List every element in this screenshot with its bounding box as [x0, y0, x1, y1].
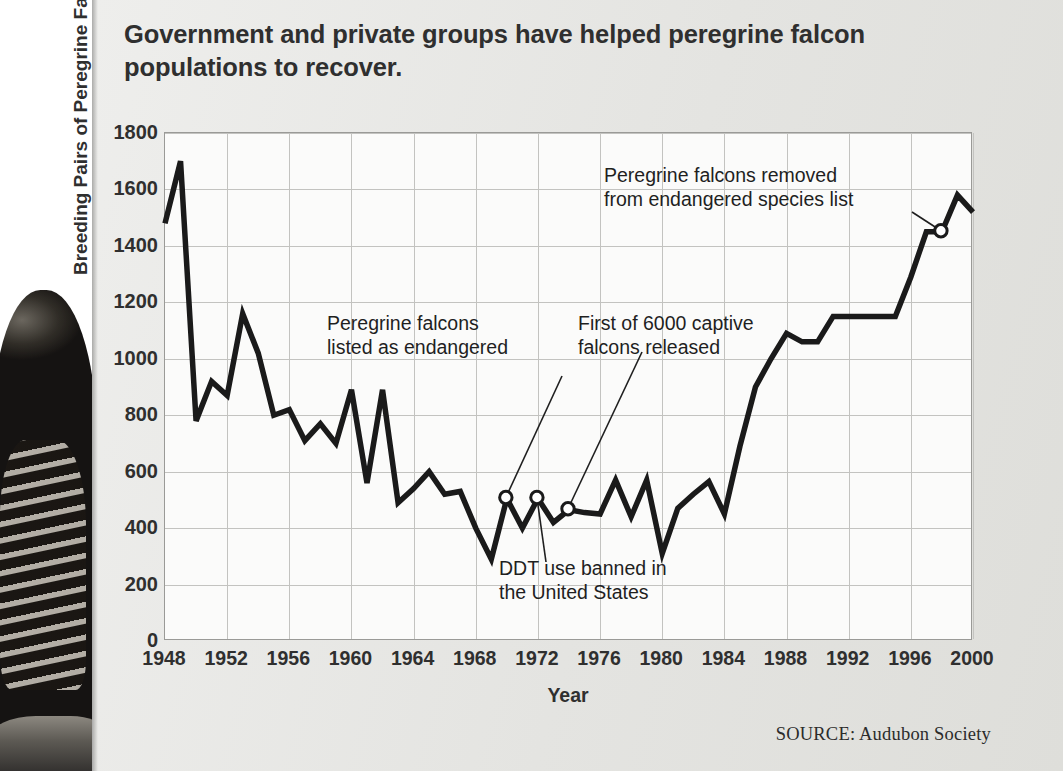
y-tick-label: 200 — [96, 572, 158, 595]
x-axis-ticks: 1948195219561960196419681972197619801984… — [164, 647, 972, 675]
x-tick-label: 1992 — [826, 647, 869, 670]
y-tick-label: 1000 — [96, 346, 158, 369]
y-tick-label: 1600 — [96, 177, 158, 200]
y-tick-label: 1400 — [96, 233, 158, 256]
x-tick-label: 1952 — [204, 647, 247, 670]
x-tick-label: 1988 — [764, 647, 807, 670]
y-tick-label: 400 — [96, 516, 158, 539]
x-axis-label: Year — [164, 684, 972, 707]
annotation-listed-as-endangered: Peregrine falcons listed as endangered — [327, 312, 508, 360]
page-title: Government and private groups have helpe… — [124, 18, 884, 84]
x-tick-label: 1956 — [267, 647, 310, 670]
data-line — [165, 161, 973, 559]
y-tick-label: 800 — [96, 403, 158, 426]
x-tick-label: 1976 — [577, 647, 620, 670]
x-tick-label: 1948 — [142, 647, 185, 670]
x-tick-label: 1984 — [702, 647, 745, 670]
x-tick-label: 2000 — [950, 647, 993, 670]
x-tick-label: 1968 — [453, 647, 496, 670]
x-tick-label: 1972 — [515, 647, 558, 670]
photo-ground — [0, 716, 92, 771]
source-credit: SOURCE: Audubon Society — [776, 724, 991, 745]
y-tick-label: 600 — [96, 459, 158, 482]
y-axis-label: Breeding Pairs of Peregrine Falcons — [70, 0, 92, 275]
x-tick-label: 1960 — [329, 647, 372, 670]
x-tick-label: 1964 — [391, 647, 434, 670]
y-axis-ticks: 020040060080010001200140016001800 — [96, 132, 158, 640]
y-tick-label: 1800 — [96, 121, 158, 144]
annotation-ddt-banned: DDT use banned in the United States — [499, 557, 667, 605]
annotation-removed-from-list: Peregrine falcons removed from endangere… — [604, 164, 853, 212]
figure-page: Government and private groups have helpe… — [0, 0, 1063, 771]
x-tick-label: 1996 — [888, 647, 931, 670]
y-tick-label: 1200 — [96, 290, 158, 313]
x-tick-label: 1980 — [640, 647, 683, 670]
annotation-captive-falcons-released: First of 6000 captive falcons released — [578, 312, 754, 360]
